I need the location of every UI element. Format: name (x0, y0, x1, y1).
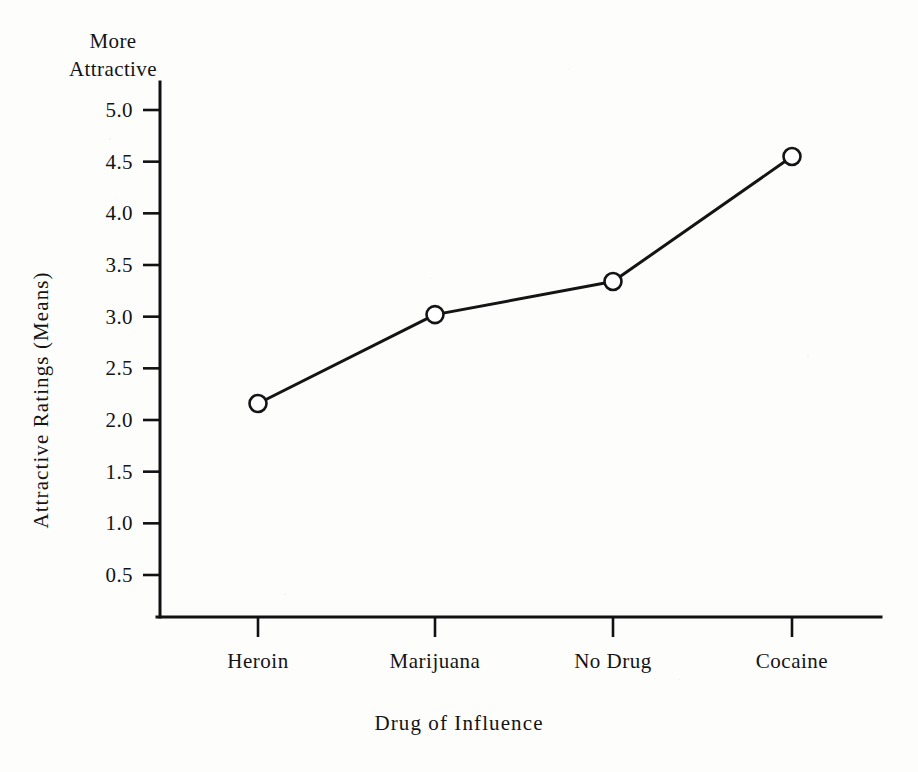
y-tick-label: 0.5 (106, 563, 133, 587)
x-category-label: No Drug (574, 649, 652, 673)
y-tick-label: 4.5 (106, 150, 133, 174)
series-line (258, 157, 792, 404)
y-axis-title: Attractive Ratings (Means) (29, 271, 53, 528)
x-axis-ticks: HeroinMarijuanaNo DrugCocaine (227, 617, 828, 673)
y-tick-label: 2.0 (106, 408, 133, 432)
data-point-marker-heroin (250, 395, 267, 412)
y-axis-top-anchor-line1: More (89, 29, 136, 53)
y-tick-label: 5.0 (106, 98, 133, 122)
y-tick-label: 1.0 (106, 511, 133, 535)
y-tick-label: 4.0 (106, 201, 133, 225)
x-axis-title: Drug of Influence (374, 711, 543, 735)
y-tick-label: 1.5 (106, 460, 133, 484)
data-series-layer (250, 148, 801, 412)
line-chart-canvas: More Attractive Attractive Ratings (Mean… (0, 0, 918, 772)
y-axis-ticks: 5.04.54.03.53.02.52.01.51.00.5 (106, 98, 160, 587)
y-axis-top-anchor-line2: Attractive (69, 57, 157, 81)
data-point-marker-cocaine (784, 148, 801, 165)
x-category-label: Heroin (227, 649, 288, 673)
y-tick-label: 2.5 (106, 356, 133, 380)
y-tick-label: 3.0 (106, 305, 133, 329)
data-point-marker-no-drug (605, 273, 622, 290)
y-tick-label: 3.5 (106, 253, 133, 277)
x-category-label: Cocaine (756, 649, 828, 673)
data-point-marker-marijuana (427, 306, 444, 323)
chart-figure: More Attractive Attractive Ratings (Mean… (0, 0, 918, 772)
x-category-label: Marijuana (390, 649, 481, 673)
